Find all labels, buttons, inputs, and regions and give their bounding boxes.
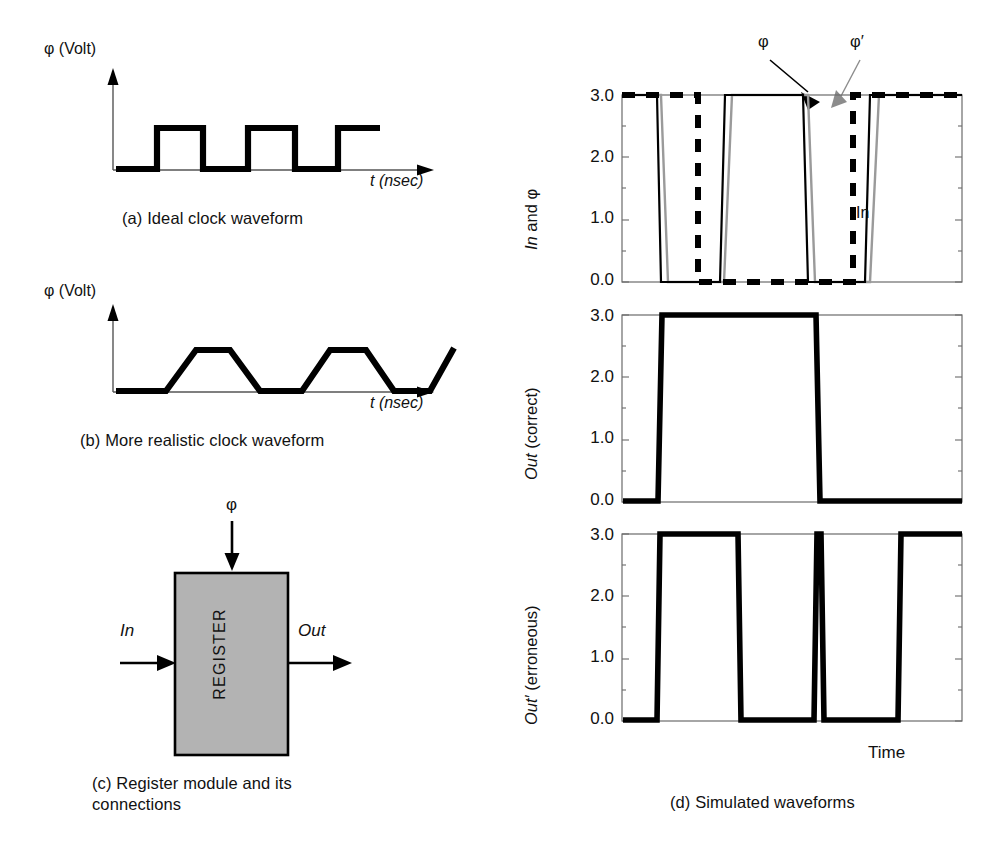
panel-c-register-module: φ REGISTER In Out (c) Register module an… <box>120 495 450 785</box>
panel-c-caption: (c) Register module and its connections <box>92 773 392 814</box>
subplot-2-yticks <box>622 315 962 502</box>
subplot-3-yticks <box>622 534 962 721</box>
panel-a-y-arrow-icon <box>108 68 119 85</box>
input-arrow-icon <box>157 655 176 671</box>
annotation-phi-arrow-line <box>770 60 808 92</box>
panel-d-x-axis-label: Time <box>868 743 905 763</box>
subplot-1-frame <box>622 95 962 282</box>
figure-root: φ (Volt) t (nsec) (a) Ideal clock wavefo… <box>0 0 992 859</box>
panel-b-caption: (b) More realistic clock waveform <box>80 430 324 451</box>
register-block <box>175 573 288 755</box>
panel-d-caption: (d) Simulated waveforms <box>670 792 855 813</box>
panel-c-output-label: Out <box>298 621 325 641</box>
subplot-3-plot <box>520 514 980 744</box>
subplot-3-frame <box>622 534 962 721</box>
subplot-1-plot <box>520 20 980 320</box>
panel-c-input-label: In <box>120 621 134 641</box>
subplot-3-out-prime-waveform <box>623 534 962 720</box>
subplot-1-yticks <box>622 95 962 282</box>
panel-b-y-axis-label: φ (Volt) <box>44 282 96 300</box>
panel-a-y-axis-label: φ (Volt) <box>44 40 96 58</box>
panel-b-y-arrow-icon <box>108 304 119 321</box>
panel-d-simulated-waveforms: φ φ′ In and φ 3.0 2.0 1.0 0.0 <box>520 20 980 820</box>
panel-b-realistic-clock: φ (Volt) t (nsec) (b) More realistic clo… <box>30 282 460 452</box>
clock-arrow-icon <box>225 553 240 571</box>
subplot-2-frame <box>622 315 962 502</box>
panel-a-ideal-clock: φ (Volt) t (nsec) (a) Ideal clock wavefo… <box>30 40 460 220</box>
subplot-2-plot <box>520 295 980 525</box>
panel-a-clock-waveform <box>116 128 380 169</box>
subplot-1-in-waveform <box>622 95 962 282</box>
subplot-1-phi-waveform <box>622 95 962 282</box>
panel-c-diagram <box>120 495 450 745</box>
subplot-1-phi-prime-waveform <box>622 95 962 282</box>
panel-a-caption: (a) Ideal clock waveform <box>122 208 303 229</box>
panel-c-clock-port-label: φ <box>226 495 237 515</box>
panel-a-x-axis-label: t (nsec) <box>370 172 423 190</box>
register-block-label: REGISTER <box>211 579 229 729</box>
subplot-1-in-inline-label: In <box>856 204 869 222</box>
panel-b-x-axis-label: t (nsec) <box>370 394 423 412</box>
output-arrow-icon <box>333 655 352 671</box>
panel-b-clock-waveform <box>116 348 454 391</box>
annotation-phi-prime-arrow-icon <box>831 90 847 108</box>
subplot-2-out-waveform <box>623 315 962 501</box>
